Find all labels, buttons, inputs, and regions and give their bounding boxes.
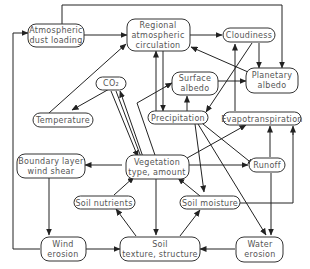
climate-feedback-diagram: Atmospheric dust loading Regional atmosp… [0,0,310,269]
node-label: Temperature [35,116,90,125]
node-label: texture, structure [122,250,198,259]
node-vegetation-type-amount: Vegetation type, amount [126,155,189,179]
node-wind-erosion: Wind erosion [41,237,86,261]
node-atmospheric-dust-loading: Atmospheric dust loading [28,24,84,47]
node-boundary-layer-wind-shear: Boundary layer wind shear [17,154,85,178]
node-soil-texture-structure: Soil texture, structure [120,237,200,261]
node-label: erosion [244,250,275,259]
node-label: Wind [52,240,73,249]
node-label: Soil [152,240,168,249]
node-label: erosion [47,250,78,259]
node-label: Surface [179,74,212,83]
node-planetary-albedo: Planetary albedo [246,68,298,93]
node-label: Atmospheric [29,26,83,35]
node-label: Vegetation [134,158,180,167]
node-label: atmospheric [131,31,184,40]
node-label: Water [247,240,273,249]
node-water-erosion: Water erosion [236,237,283,262]
node-label: CO₂ [103,79,119,88]
node-soil-moisture: Soil moisture [180,196,240,209]
node-runoff: Runoff [249,158,285,172]
node-label: Cloudiness [226,31,272,40]
node-label: dust loading [29,36,82,45]
node-label: circulation [136,41,181,50]
node-surface-albedo: Surface albedo [172,72,218,95]
node-evapotranspiration: Evapotranspiration [221,112,302,125]
node-label: Evapotranspiration [221,115,302,124]
node-regional-atmospheric-circulation: Regional atmospheric circulation [127,19,190,51]
node-co2: CO₂ [96,77,126,90]
node-label: Precipitation [151,114,205,123]
node-label: Boundary layer [18,157,84,166]
node-cloudiness: Cloudiness [223,28,275,42]
node-label: albedo [258,81,287,90]
node-precipitation: Precipitation [148,111,208,124]
node-label: Runoff [253,161,281,170]
node-label: type, amount [128,168,185,177]
node-label: Planetary [252,71,293,80]
node-soil-nutrients: Soil nutrients [74,196,135,209]
node-label: wind shear [28,167,75,176]
node-label: Soil moisture [182,199,238,208]
node-label: Soil nutrients [75,199,132,208]
node-label: Regional [140,21,177,30]
node-temperature: Temperature [33,113,93,127]
node-label: albedo [181,84,210,93]
